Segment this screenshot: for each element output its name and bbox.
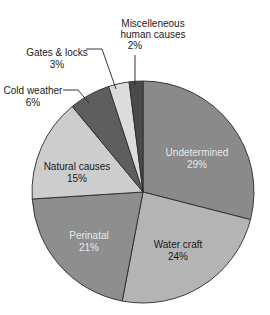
label-cold-pct: 6% [26,97,41,108]
label-gates-pct: 3% [50,59,65,70]
label-misc-pct: 2% [128,40,143,51]
label-watercraft-name: Water craft [154,239,203,250]
label-perinatal-pct: 21% [79,242,99,253]
leader-line-gates [86,49,116,89]
pie-slices [32,81,254,303]
label-perinatal-name: Perinatal [69,230,108,241]
pie-chart: Miscelleneous human causes 2% Gates & lo… [0,0,270,315]
label-natural-name: Natural causes [44,161,111,172]
label-cold-name: Cold weather [4,85,64,96]
label-natural-pct: 15% [67,173,87,184]
label-undetermined-pct: 29% [187,159,207,170]
label-misc-line1: Miscelleneous [121,18,184,29]
label-gates-name: Gates & locks [26,47,88,58]
label-misc-line2: human causes [120,29,185,40]
label-undetermined-name: Undetermined [166,147,229,158]
label-watercraft-pct: 24% [168,251,188,262]
